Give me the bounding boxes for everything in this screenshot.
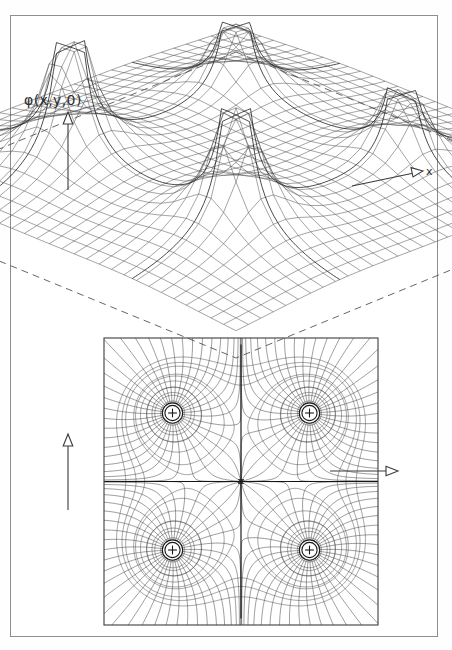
- charge-symbol: [162, 540, 182, 560]
- phi-axis-label: φ(x,y,0): [24, 92, 82, 108]
- phi-axis: [63, 112, 73, 190]
- figure-page: φ(x,y,0) x y: [0, 0, 452, 650]
- y-axis-2d: [63, 434, 73, 510]
- field-map-panel: y x: [0, 330, 452, 650]
- x-axis-2d: [330, 466, 398, 476]
- fieldmap-svg: [0, 330, 452, 650]
- x-axis-label-3d: x: [426, 165, 433, 178]
- charge-symbol: [162, 403, 182, 423]
- potential-surface-panel: φ(x,y,0) x: [0, 0, 452, 330]
- x-axis-3d: [352, 168, 423, 186]
- charge-symbol: [299, 540, 319, 560]
- charge-symbol: [299, 403, 319, 423]
- separatrix-lines: [104, 345, 378, 619]
- surface-svg: [0, 0, 452, 330]
